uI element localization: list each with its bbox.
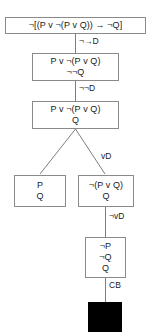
proof-tree-diagram: ¬[(P v ¬(P v Q)) → ¬Q] ¬→D P v ¬(P v Q) … xyxy=(0,0,151,336)
node-2: P v ¬(P v Q) ¬¬Q xyxy=(32,53,119,81)
node-root: ¬[(P v ¬(P v Q)) → ¬Q] xyxy=(5,17,146,34)
node-root-line-1: ¬[(P v ¬(P v Q)) → ¬Q] xyxy=(29,20,123,31)
node-3: P v ¬(P v Q) Q xyxy=(32,101,119,129)
rule-label-not-arrow-d: ¬→D xyxy=(79,36,99,46)
closed-branch-marker xyxy=(88,302,122,332)
edge-node5-to-closure xyxy=(105,278,106,302)
node-2-line-1: P v ¬(P v Q) xyxy=(50,56,100,67)
edge-node2-to-node3 xyxy=(75,81,76,101)
node-right-branch-line-2: Q xyxy=(102,191,109,202)
node-right-branch-line-1: ¬(P v Q) xyxy=(89,180,123,191)
node-5: ¬P ¬Q Q xyxy=(85,237,126,278)
rule-label-not-disjunction-d: ¬vD xyxy=(109,211,124,221)
node-5-line-3: Q xyxy=(102,263,109,274)
node-5-line-2: ¬Q xyxy=(99,252,111,263)
branch-line-left xyxy=(40,129,76,174)
node-left-branch: P Q xyxy=(14,175,66,207)
node-3-line-2: Q xyxy=(72,115,79,126)
node-5-line-1: ¬P xyxy=(100,241,111,252)
node-left-branch-line-1: P xyxy=(37,180,43,191)
edge-root-to-node2 xyxy=(75,34,76,53)
node-left-branch-line-2: Q xyxy=(36,191,43,202)
edge-right-branch-to-node5 xyxy=(105,207,106,237)
node-2-line-2: ¬¬Q xyxy=(67,67,85,78)
rule-label-closed-branch: CB xyxy=(109,280,121,290)
rule-label-double-negation-d: ¬¬D xyxy=(79,83,95,93)
node-3-line-1: P v ¬(P v Q) xyxy=(50,104,100,115)
rule-label-disjunction-d: vD xyxy=(101,151,111,161)
branch-fork-lines xyxy=(0,129,151,176)
node-right-branch: ¬(P v Q) Q xyxy=(78,175,134,207)
